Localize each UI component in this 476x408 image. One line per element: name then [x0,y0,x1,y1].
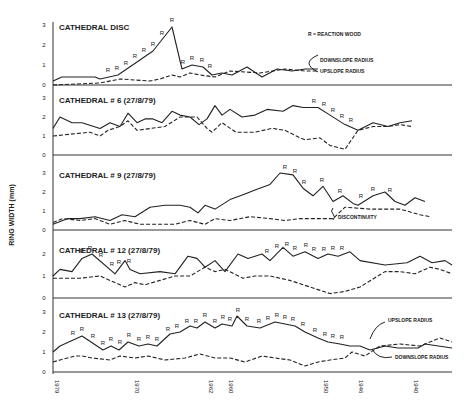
reaction-wood-mark: R [110,261,115,267]
reaction-wood-mark: R [293,168,298,174]
reaction-wood-mark: R [340,113,345,119]
reaction-wood-mark: R [80,326,85,332]
legend-note: R = REACTION WOOD [308,31,361,37]
annotation-downslope: DOWNSLOPE RADIUS [395,354,449,360]
reaction-wood-mark: R [320,177,325,183]
x-tick-label: 1979 [54,380,60,394]
series-solid [53,27,318,81]
reaction-wood-mark: R [117,259,122,265]
ring-width-chart: RRRRRRRRRRRRRRRRRRRRRRRRRRRRRRRRRRRRRRRR… [0,0,476,408]
reaction-wood-mark: R [91,333,96,339]
svg-text:0: 0 [42,227,46,233]
annotation-upslope: UPSLOPE RADIUS [388,317,433,323]
reaction-wood-mark: R [285,241,290,247]
reaction-wood-mark: R [118,339,123,345]
reaction-wood-mark: R [338,188,343,194]
svg-text:2: 2 [42,189,46,195]
reaction-wood-mark: R [301,321,306,327]
reaction-wood-mark: R [359,193,364,199]
reaction-wood-mark: R [142,47,147,53]
series-dashed [53,267,452,293]
reaction-wood-mark: R [340,245,345,251]
svg-text:2: 2 [42,42,46,48]
reaction-wood-mark: R [203,312,208,318]
reaction-wood-mark: R [304,242,309,248]
reaction-wood-mark: R [106,67,111,73]
reaction-wood-mark: R [257,318,262,324]
reaction-wood-mark: R [312,98,317,104]
reaction-wood-mark: R [181,59,186,65]
svg-text:0: 0 [42,82,46,88]
reaction-wood-mark: R [133,53,138,59]
reaction-wood-mark: R [322,101,327,107]
reaction-wood-mark: R [151,41,156,47]
annotation-discontinuity: DISCONTINUITY [338,214,378,220]
reaction-wood-mark: R [71,330,76,336]
svg-text:0: 0 [42,295,46,301]
reaction-wood-mark: R [331,107,336,113]
reaction-wood-mark: R [170,17,175,23]
reaction-wood-mark: R [190,55,195,61]
svg-text:2: 2 [42,329,46,335]
reaction-wood-mark: R [275,312,280,318]
svg-text:1: 1 [42,349,46,355]
reaction-wood-mark: R [265,248,270,254]
svg-text:0: 0 [42,369,46,375]
reaction-wood-mark: R [275,243,280,249]
reaction-wood-mark: R [266,315,271,321]
reaction-wood-mark: R [236,307,241,313]
svg-text:0: 0 [42,152,46,158]
annotation-upslope: UPSLOPE RADIUS [320,68,365,74]
reaction-wood-mark: R [185,318,190,324]
reaction-wood-mark: R [137,336,142,342]
reaction-wood-mark: R [115,65,120,71]
reaction-wood-mark: R [322,246,327,252]
svg-text:3: 3 [42,22,46,28]
svg-text:3: 3 [42,170,46,176]
reaction-wood-mark: R [175,323,180,329]
reaction-wood-mark: R [109,336,114,342]
panel-title: CATHEDRAL # 12 (27/8/79) [59,246,160,255]
reaction-wood-mark: R [146,334,151,340]
reaction-wood-mark: R [124,60,129,66]
panel-title: CATHEDRAL # 9 (27/8/79) [59,171,156,180]
reaction-wood-mark: R [200,57,205,63]
labels: RING WIDTH (mm)R = REACTION WOODCATHEDRA… [8,22,449,394]
svg-text:1: 1 [42,208,46,214]
x-tick-label: 1960 [228,380,234,394]
annotation-downslope: DOWNSLOPE RADIUS [320,57,374,63]
panel-title: CATHEDRAL # 6 (27/8/79) [59,96,156,105]
reaction-wood-mark: R [312,246,317,252]
reaction-wood-mark: R [160,30,165,36]
x-tick-label: 1950 [323,380,329,394]
x-tick-label: 1946 [358,380,364,394]
reaction-wood-mark: R [101,340,106,346]
svg-text:3: 3 [42,309,46,315]
y-axis-label: RING WIDTH (mm) [8,184,16,245]
series-solid [53,106,412,131]
reaction-wood-mark: R [323,331,328,337]
series-dashed [53,117,412,149]
reaction-wood-mark: R [213,318,218,324]
x-tick-label: 1970 [134,380,140,394]
panel-title: CATHEDRAL DISC [59,23,130,32]
reaction-wood-mark: R [155,336,160,342]
svg-text:1: 1 [42,273,46,279]
reaction-wood-mark: R [194,318,199,324]
reaction-wood-mark: R [340,334,345,340]
x-tick-label: 1962 [208,380,214,394]
reaction-wood-mark: R [245,316,250,322]
reaction-wood-mark: R [127,332,132,338]
series-dashed [53,338,452,366]
svg-text:1: 1 [42,133,46,139]
reaction-wood-mark: R [127,258,132,264]
svg-text:2: 2 [42,114,46,120]
reaction-wood-marks: RRRRRRRRRRRRRRRRRRRRRRRRRRRRRRRRRRRRRRRR… [71,17,393,346]
reaction-wood-mark: R [371,186,376,192]
panel-title: CATHEDRAL # 13 (27/8/79) [59,311,160,320]
reaction-wood-mark: R [283,314,288,320]
reaction-wood-mark: R [313,327,318,333]
svg-text:3: 3 [42,95,46,101]
svg-text:1: 1 [42,62,46,68]
reaction-wood-mark: R [293,245,298,251]
